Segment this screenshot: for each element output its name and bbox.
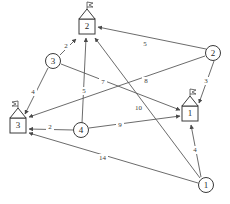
svg-text:9: 9	[118, 121, 122, 129]
edge-label-circle4-house2: 5	[80, 87, 88, 95]
graph-canvas: 2 3 1 3 2 4	[0, 0, 230, 204]
edge-label-circle3-house2: 2	[62, 42, 70, 50]
svg-text:5: 5	[82, 87, 86, 95]
house-1-roof	[182, 96, 198, 106]
svg-text:4: 4	[31, 88, 35, 96]
svg-text:4: 4	[193, 146, 197, 154]
house-2-flag-icon	[87, 2, 93, 7]
edge-label-circle1-house3: 14	[97, 154, 108, 162]
node-house-3[interactable]: 3	[10, 101, 26, 133]
house-2-roof	[79, 9, 95, 19]
edge-label-circle2-house1: 3	[202, 77, 210, 85]
house-1-label: 1	[188, 108, 193, 118]
house-3-flag-icon	[12, 101, 18, 106]
node-circle-3[interactable]: 3	[46, 54, 61, 69]
node-circle-2[interactable]: 2	[206, 46, 221, 61]
edge-circle4-house1	[89, 116, 180, 128]
house-1-flag-icon	[190, 89, 196, 94]
edge-label-circle1-house1: 4	[191, 146, 199, 154]
svg-text:8: 8	[144, 77, 148, 85]
edge-label-circle1-house2: 10	[133, 104, 144, 112]
edge-label-circle2-house2: 5	[141, 40, 149, 48]
circle-2-label: 2	[211, 48, 216, 58]
svg-text:2: 2	[48, 123, 52, 131]
circle-4-label: 4	[79, 125, 84, 135]
svg-text:14: 14	[99, 154, 107, 162]
edge-label-circle3-house3: 4	[29, 88, 37, 96]
circle-3-label: 3	[51, 56, 56, 66]
circle-1-label: 1	[204, 180, 209, 190]
edge-label-circle3-house1: 7	[99, 78, 107, 86]
house-3-label: 3	[16, 120, 21, 130]
svg-text:7: 7	[101, 78, 105, 86]
node-circle-4[interactable]: 4	[74, 123, 89, 138]
node-house-2[interactable]: 2	[79, 2, 95, 34]
house-3-roof	[10, 108, 26, 118]
graph-diagram: 2 3 1 3 2 4	[0, 0, 230, 204]
edge-label-circle2-house3: 8	[142, 77, 150, 85]
svg-text:2: 2	[64, 42, 68, 50]
edge-label-circle4-house1: 9	[116, 121, 124, 129]
svg-text:10: 10	[135, 104, 143, 112]
edge-circle2-house2	[98, 27, 206, 49]
edge-label-circle4-house3: 2	[46, 123, 54, 131]
svg-text:3: 3	[204, 77, 208, 85]
house-2-label: 2	[85, 21, 90, 31]
edge-circle4-house2	[82, 38, 86, 123]
node-house-1[interactable]: 1	[182, 89, 198, 121]
edge-circle1-house3	[29, 133, 198, 183]
svg-text:5: 5	[143, 40, 147, 48]
node-circle-1[interactable]: 1	[199, 178, 214, 193]
